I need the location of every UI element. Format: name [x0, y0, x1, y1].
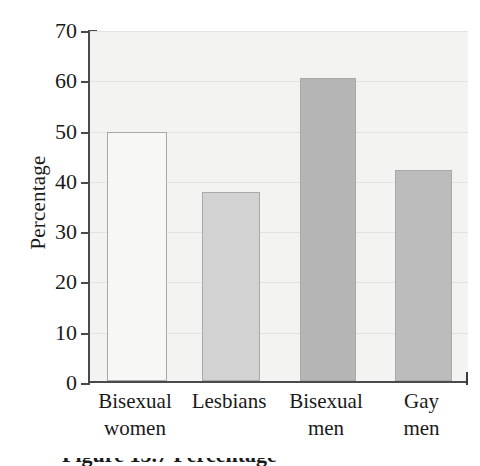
bar-gay-men[interactable]	[395, 170, 452, 381]
x-axis-label-line2: women	[55, 415, 215, 442]
x-axis-label-line2: men	[342, 415, 480, 442]
y-axis-tick-label: 40	[55, 171, 77, 193]
gridline	[90, 81, 468, 82]
y-axis-tick-mark	[81, 333, 90, 335]
x-axis-right-tick	[466, 372, 468, 385]
y-axis-title: Percentage	[26, 103, 51, 303]
x-axis-label-gay-men: Gaymen	[342, 388, 480, 442]
figure-caption-text: Figure 15.7 Percentage	[62, 458, 277, 466]
figure-caption-clipped: Figure 15.7 Percentage	[0, 458, 480, 466]
y-axis-tick-label: 10	[55, 322, 77, 344]
bar-bisexual-men[interactable]	[300, 78, 356, 381]
y-axis-tick-label: 50	[55, 121, 77, 143]
y-axis-tick-mark	[81, 282, 90, 284]
x-axis-category-labels: BisexualwomenLesbiansBisexualmenGaymen	[88, 388, 468, 458]
bar-lesbians[interactable]	[202, 192, 260, 381]
y-axis-tick-mark	[81, 383, 90, 385]
y-axis-tick-label: 70	[55, 20, 77, 42]
y-axis-tick-mark	[81, 132, 90, 134]
y-axis-tick-mark	[81, 182, 90, 184]
y-axis-tick-label: 20	[55, 271, 77, 293]
y-axis-tick-mark	[81, 31, 90, 33]
plot-area: 706050403020100	[88, 31, 468, 383]
y-axis-tick-label: 60	[55, 70, 77, 92]
y-axis-tick-mark	[81, 232, 90, 234]
bar-bisexual-women[interactable]	[107, 132, 167, 381]
y-axis-tick-mark	[81, 81, 90, 83]
y-axis-tick-label: 30	[55, 221, 77, 243]
x-axis-label-line1: Gay	[342, 388, 480, 415]
bar-chart-figure: Percentage 706050403020100 Bisexualwomen…	[0, 0, 480, 466]
gridline	[90, 31, 468, 32]
